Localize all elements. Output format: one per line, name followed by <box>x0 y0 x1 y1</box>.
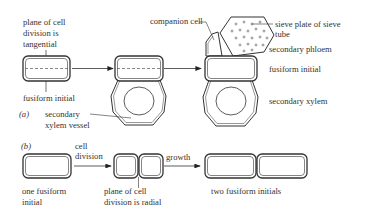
label-one-fusiform-initial-2: initial <box>22 197 43 207</box>
label-fusiform-initial-left: fusiform initial <box>23 93 75 103</box>
xylem-vessel-cell <box>111 80 166 125</box>
fusiform-initial-cell-a1 <box>23 56 70 81</box>
fusiform-initial-cell-a3 <box>205 56 257 81</box>
label-cell-division-1: cell <box>75 141 88 151</box>
label-plane-tangential-1: plane of cell <box>23 17 66 27</box>
two-fusiform-initials-cells <box>205 154 307 178</box>
label-growth: growth <box>166 152 191 162</box>
label-plane-tangential-3: tangential <box>23 39 57 49</box>
label-two-fusiform-initials: two fusiform initials <box>211 186 282 196</box>
part-a-label: (a) <box>19 109 29 119</box>
label-plane-radial-2: division is radial <box>104 197 162 207</box>
xylem-vessel-cell-right <box>203 80 258 126</box>
fusiform-initial-cell-a2 <box>115 56 163 81</box>
cambium-division-diagram: plane of cell division is tangential fus… <box>0 0 370 214</box>
label-one-fusiform-initial-1: one fusiform <box>22 186 66 196</box>
sieve-tube-cell <box>220 17 274 56</box>
label-cell-division-2: division <box>75 151 103 161</box>
label-secondary-xylem-vessel-1: secondary <box>45 109 81 119</box>
companion-cell <box>206 32 222 56</box>
part-b-label: (b) <box>21 141 31 151</box>
one-fusiform-initial-cell <box>23 154 71 178</box>
label-secondary-xylem-vessel-2: xylem vessel <box>45 120 90 130</box>
label-sieve-plate-1: sieve plate of sieve <box>275 19 341 29</box>
label-plane-tangential-2: division is <box>23 28 59 38</box>
divided-cells-radial <box>114 154 163 178</box>
label-secondary-phloem: secondary phloem <box>269 44 332 54</box>
label-sieve-plate-2: tube <box>275 29 290 39</box>
label-fusiform-initial-right: fusiform initial <box>269 64 321 74</box>
label-companion-cell: companion cell <box>150 16 203 26</box>
label-secondary-xylem: secondary xylem <box>269 96 328 106</box>
label-plane-radial-1: plane of cell <box>104 186 147 196</box>
